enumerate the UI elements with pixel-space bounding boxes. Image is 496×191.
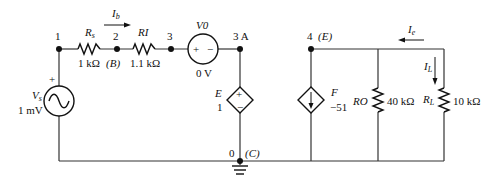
e-plus: + xyxy=(236,88,242,100)
v0-value: 0 V xyxy=(196,67,212,79)
resistor-ro-icon xyxy=(373,88,383,112)
v0-minus: − xyxy=(207,43,213,55)
node-4-dot xyxy=(308,46,314,52)
v0-plus: + xyxy=(193,43,199,55)
vs-name: Vs xyxy=(32,89,42,103)
v0-name: V0 xyxy=(196,19,209,31)
node-4-label: 4 xyxy=(307,30,313,42)
resistor-rs-icon xyxy=(78,44,100,54)
f-name: F xyxy=(330,86,338,98)
e-name: E xyxy=(214,87,222,99)
rl-value: 10 kΩ xyxy=(453,95,480,107)
node-2-label: 2 xyxy=(113,30,119,42)
rs-name: Rs xyxy=(84,26,95,40)
ri-name: RI xyxy=(137,26,150,38)
ie-label: Ie xyxy=(407,23,416,37)
node-2-dot xyxy=(114,46,120,52)
f-arrow-down-icon xyxy=(309,92,314,109)
vs-value: 1 mV xyxy=(18,104,43,116)
il-arrow-icon xyxy=(433,57,438,85)
node-0-alias: (C) xyxy=(245,147,260,160)
node-0-label: 0 xyxy=(229,147,235,159)
ib-label: Ib xyxy=(111,7,120,21)
ie-arrow-icon xyxy=(398,38,424,43)
node-1-dot xyxy=(56,46,62,52)
ri-value: 1.1 kΩ xyxy=(130,57,160,69)
ib-arrow-icon xyxy=(104,23,131,28)
ground-icon xyxy=(232,166,248,174)
sine-wave-icon xyxy=(49,94,69,108)
resistor-rl-icon xyxy=(439,88,449,112)
node-3-dot xyxy=(168,46,174,52)
node-3a-dot xyxy=(237,46,243,52)
vs-plus: + xyxy=(49,73,55,85)
node-1-label: 1 xyxy=(55,30,61,42)
circuit-diagram: 1 2 (B) 3 3 A 4 (E) 0 (C) Rs 1 kΩ RI 1.1… xyxy=(0,0,496,191)
e-minus: − xyxy=(237,101,243,113)
node-2-alias: (B) xyxy=(106,57,120,70)
e-value: 1 xyxy=(217,101,223,113)
node-4-alias: (E) xyxy=(318,30,332,43)
ro-name: RO xyxy=(352,95,368,107)
ro-value: 40 kΩ xyxy=(387,95,414,107)
rl-name: RL xyxy=(422,93,435,107)
resistor-ri-icon xyxy=(133,44,155,54)
node-3-label: 3 xyxy=(167,30,173,42)
rs-value: 1 kΩ xyxy=(78,57,100,69)
node-0-dot xyxy=(237,158,243,164)
il-label: IL xyxy=(423,60,433,74)
f-value: −51 xyxy=(330,101,347,113)
node-3a-label: 3 A xyxy=(233,30,249,42)
